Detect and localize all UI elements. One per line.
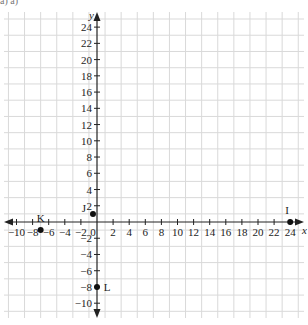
x-tick-label: −10 — [8, 226, 26, 238]
y-tick-label: 4 — [87, 184, 93, 196]
x-tick-label: 8 — [159, 226, 165, 238]
point-label-k: K — [37, 212, 45, 224]
y-tick-label: 2 — [87, 200, 93, 212]
point-label-j: J — [82, 202, 87, 214]
x-tick-label: −8 — [27, 226, 39, 238]
y-tick-label: 16 — [81, 86, 93, 98]
x-axis-label: x — [301, 224, 307, 236]
y-tick-label: −10 — [75, 297, 93, 309]
x-tick-label: 4 — [126, 226, 132, 238]
x-tick-label: 24 — [285, 226, 297, 238]
y-tick-label: 6 — [87, 167, 93, 179]
x-tick-label: −6 — [43, 226, 55, 238]
y-tick-label: 12 — [81, 119, 92, 131]
y-tick-label: −6 — [80, 265, 92, 277]
point-l — [94, 284, 100, 290]
y-axis-arrow-down-icon — [94, 309, 101, 318]
point-label-l: L — [104, 281, 111, 293]
grid-lines — [4, 12, 304, 318]
x-tick-label: −4 — [59, 226, 71, 238]
x-tick-label: 10 — [172, 226, 184, 238]
x-tick-label: 2 — [110, 226, 116, 238]
y-tick-label: 10 — [81, 135, 93, 147]
x-tick-label: 18 — [236, 226, 248, 238]
point-label-i: I — [285, 204, 289, 216]
y-tick-label: 22 — [81, 37, 92, 49]
y-tick-label: −4 — [80, 248, 92, 260]
axes: xy — [4, 9, 307, 318]
coordinate-plane: xy −10−8−6−4−2024681012141618202224−10−8… — [0, 0, 308, 325]
x-tick-label: 22 — [269, 226, 280, 238]
x-tick-label: 14 — [204, 226, 216, 238]
y-tick-label: 14 — [81, 102, 93, 114]
point-k — [38, 227, 44, 233]
y-tick-label: 8 — [87, 151, 93, 163]
point-j — [90, 211, 96, 217]
x-tick-label: 20 — [253, 226, 265, 238]
x-tick-label: 16 — [220, 226, 232, 238]
y-axis-label: y — [88, 9, 94, 21]
x-tick-label: 12 — [188, 226, 199, 238]
y-tick-label: 18 — [81, 70, 93, 82]
y-tick-label: −2 — [80, 232, 92, 244]
y-tick-label: 20 — [81, 54, 93, 66]
point-i — [287, 219, 293, 225]
y-tick-label: 24 — [81, 21, 93, 33]
y-axis-arrow-up-icon — [94, 12, 101, 21]
y-tick-label: −8 — [80, 281, 92, 293]
x-tick-label: 6 — [143, 226, 149, 238]
